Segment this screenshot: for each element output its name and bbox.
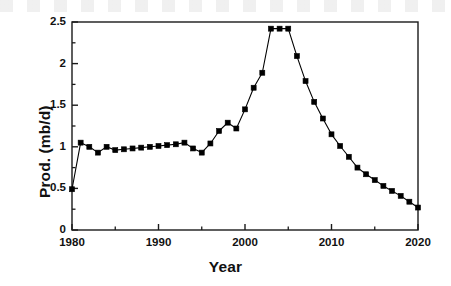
data-point — [416, 205, 421, 210]
data-point — [312, 99, 317, 104]
data-point — [173, 142, 178, 147]
y-tick-label: 2.5 — [36, 15, 66, 27]
x-tick-label: 1990 — [143, 236, 175, 248]
data-point — [303, 79, 308, 84]
y-tick-label: 0 — [36, 223, 66, 235]
data-point — [165, 143, 170, 148]
data-point — [260, 70, 265, 75]
data-point — [372, 178, 377, 183]
data-point — [156, 143, 161, 148]
data-point — [277, 26, 282, 31]
data-point — [346, 154, 351, 159]
data-point — [286, 26, 291, 31]
y-tick-label: 1 — [36, 140, 66, 152]
axis-ticks — [72, 22, 418, 230]
data-point — [78, 140, 83, 145]
data-point — [87, 144, 92, 149]
data-point — [398, 193, 403, 198]
y-tick-label: 0.5 — [36, 181, 66, 193]
data-point — [268, 26, 273, 31]
data-point — [251, 85, 256, 90]
data-point — [95, 150, 100, 155]
y-axis-label: Prod. (mb/d) — [18, 48, 40, 198]
data-point — [338, 143, 343, 148]
data-point — [113, 148, 118, 153]
data-point — [381, 183, 386, 188]
x-axis-label: Year — [0, 258, 451, 276]
x-tick-label: 2020 — [402, 236, 434, 248]
y-tick-label: 1.5 — [36, 98, 66, 110]
data-point — [225, 120, 230, 125]
data-point — [104, 144, 109, 149]
data-point — [139, 145, 144, 150]
data-point — [390, 188, 395, 193]
data-point — [243, 107, 248, 112]
data-point — [121, 147, 126, 152]
data-point — [407, 199, 412, 204]
y-tick-label: 2 — [36, 57, 66, 69]
data-point — [355, 165, 360, 170]
x-tick-label: 2010 — [316, 236, 348, 248]
data-point — [234, 126, 239, 131]
data-point — [294, 54, 299, 59]
data-point — [147, 144, 152, 149]
series-markers-production — [70, 26, 421, 210]
data-point — [70, 187, 75, 192]
data-point — [217, 128, 222, 133]
data-point — [364, 172, 369, 177]
x-tick-label: 2000 — [229, 236, 261, 248]
data-point — [329, 132, 334, 137]
series-line-production — [72, 29, 418, 208]
plot-frame — [72, 22, 418, 230]
data-point — [320, 116, 325, 121]
data-point — [208, 141, 213, 146]
data-point — [182, 140, 187, 145]
data-point — [199, 150, 204, 155]
data-point — [191, 146, 196, 151]
chart-figure: Prod. (mb/d) Year 19801990200020102020 0… — [0, 0, 451, 286]
data-point — [130, 146, 135, 151]
x-tick-label: 1980 — [56, 236, 88, 248]
